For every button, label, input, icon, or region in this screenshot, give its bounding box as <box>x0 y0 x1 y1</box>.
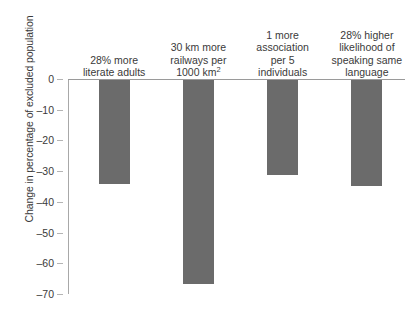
superscript-two: 2 <box>216 64 220 73</box>
category-label-line: association <box>237 41 329 53</box>
y-tick-label: –50 <box>14 228 54 238</box>
y-tick-label: –30 <box>14 166 54 176</box>
bar[interactable] <box>99 80 130 184</box>
category-label-line: literate adults <box>68 66 160 78</box>
category-label-line: 28% higher <box>321 29 411 41</box>
y-tick-label: –40 <box>14 197 54 207</box>
y-tick-mark <box>57 202 63 203</box>
y-tick-label: –70 <box>14 289 54 299</box>
category-label-line: individuals <box>237 66 329 78</box>
category-label-line: 30 km more <box>152 41 244 53</box>
category-label-line: language <box>321 66 411 78</box>
y-tick-label: –60 <box>14 258 54 268</box>
y-tick-label: –10 <box>14 105 54 115</box>
bar[interactable] <box>351 80 382 186</box>
y-tick-mark <box>57 140 63 141</box>
bar-chart-figure: Change in percentage of excluded populat… <box>0 0 411 313</box>
bar[interactable] <box>183 80 214 284</box>
y-tick-mark <box>57 294 63 295</box>
category-label: 30 km morerailways per1000 km2 <box>152 41 244 78</box>
category-label-line: likelihood of <box>321 41 411 53</box>
y-tick-mark <box>57 171 63 172</box>
category-label: 28% moreliterate adults <box>68 54 160 78</box>
category-label: 28% higherlikelihood ofspeaking samelang… <box>321 29 411 78</box>
y-tick-mark <box>57 79 63 80</box>
category-label-line: speaking same <box>321 54 411 66</box>
y-tick-mark <box>57 110 63 111</box>
plot-area <box>68 79 405 294</box>
category-label-line: railways per <box>152 54 244 66</box>
y-tick-label: –20 <box>14 135 54 145</box>
category-label-line: per 5 <box>237 54 329 66</box>
y-tick-mark <box>57 263 63 264</box>
category-label-line: 28% more <box>68 54 160 66</box>
category-labels: 28% moreliterate adults30 km morerailway… <box>68 0 411 79</box>
y-tick-mark <box>57 233 63 234</box>
category-label-line: 1000 km2 <box>152 66 244 78</box>
y-tick-label: 0 <box>14 74 54 84</box>
category-label-line: 1 more <box>237 29 329 41</box>
y-axis-tick-labels: 0–10–20–30–40–50–60–70 <box>0 0 68 313</box>
y-axis-line <box>68 79 69 294</box>
category-label: 1 moreassociationper 5individuals <box>237 29 329 78</box>
bar[interactable] <box>267 80 298 175</box>
